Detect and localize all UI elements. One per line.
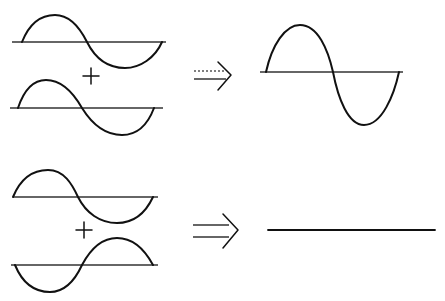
implies-arrow-icon [193, 214, 238, 248]
plus-icon [83, 68, 99, 84]
implies-arrow-icon [194, 62, 231, 90]
result-wave-constructive [260, 25, 403, 125]
input-wave-a-top [12, 15, 166, 68]
row-destructive [11, 170, 435, 292]
row-constructive [10, 15, 403, 135]
input-wave-b-top [10, 80, 163, 135]
plus-icon [76, 222, 92, 238]
input-wave-b-bottom-inverted [11, 238, 158, 292]
interference-diagram: Wave superposition: constructive and des… [0, 0, 445, 301]
sine-wave-double-amplitude [266, 25, 399, 125]
input-wave-a-bottom [13, 170, 158, 223]
